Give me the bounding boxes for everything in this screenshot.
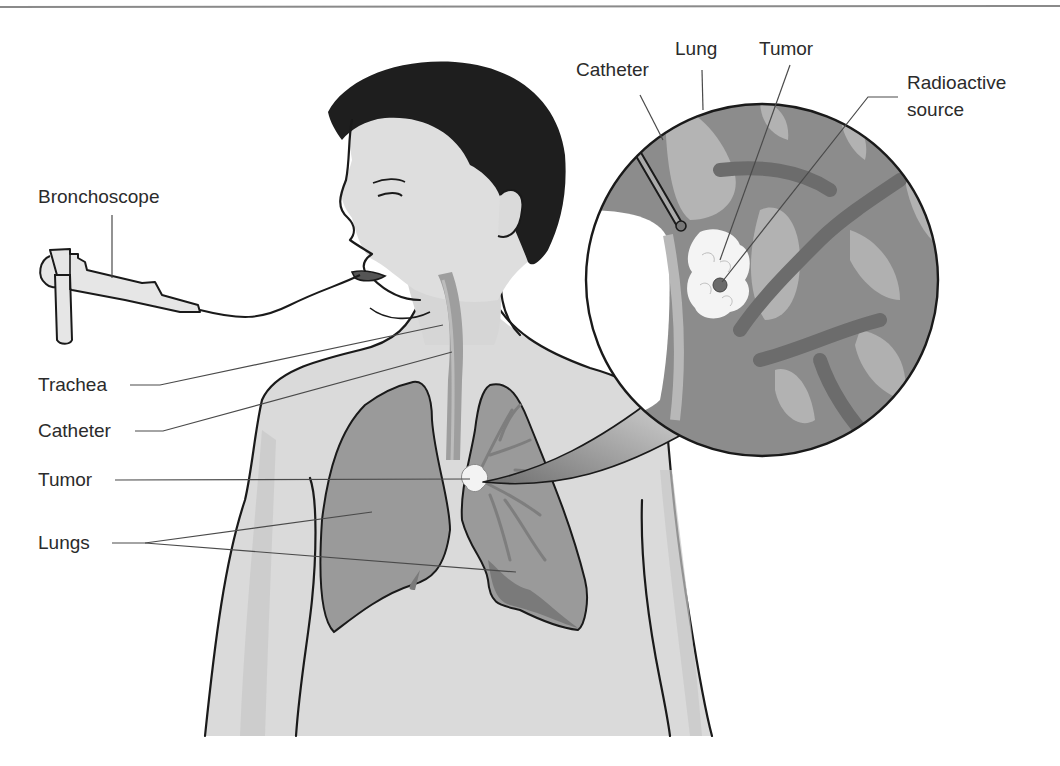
inset-label-lung: Lung bbox=[675, 38, 717, 59]
label-trachea: Trachea bbox=[38, 374, 107, 395]
label-catheter: Catheter bbox=[38, 420, 112, 441]
inset-label-radioactive-source-line2: source bbox=[907, 99, 964, 120]
inset-label-catheter: Catheter bbox=[576, 59, 650, 80]
radioactive-source bbox=[713, 278, 727, 292]
inset-label-radioactive-source-line1: Radioactive bbox=[907, 72, 1006, 93]
bronchoscope-tube bbox=[200, 275, 360, 317]
inset-label-tumor: Tumor bbox=[759, 38, 814, 59]
brachytherapy-diagram: Bronchoscope Trachea Catheter Tumor Lung… bbox=[0, 0, 1060, 766]
label-tumor: Tumor bbox=[38, 469, 93, 490]
top-rule bbox=[0, 6, 1060, 7]
label-bronchoscope: Bronchoscope bbox=[38, 186, 159, 207]
bronchoscope bbox=[40, 249, 360, 344]
label-lungs: Lungs bbox=[38, 532, 90, 553]
